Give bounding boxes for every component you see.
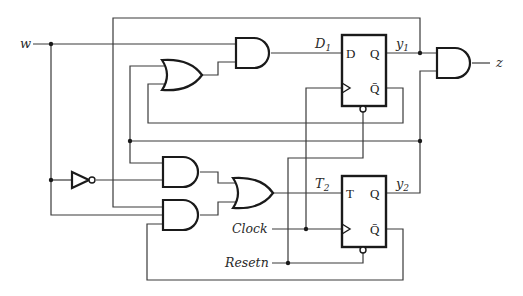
wire-or1-in-upper — [130, 66, 164, 141]
wire-and2-in-upper — [130, 141, 163, 163]
pin-q1bar: Q̄ — [370, 81, 380, 96]
label-t2: T2 — [315, 176, 330, 193]
pin-q2: Q — [370, 186, 380, 201]
label-w: w — [20, 36, 31, 51]
or-gate-t2 — [233, 178, 273, 208]
pin-q1: Q — [370, 46, 380, 61]
label-clock: Clock — [232, 221, 268, 236]
junction-dot — [49, 178, 53, 182]
label-z: z — [495, 55, 503, 70]
wire-or1-out — [200, 62, 236, 75]
and-gate-z — [437, 48, 470, 78]
t-flipflop: T Q Q̄ — [342, 176, 386, 253]
pin-q2bar: Q̄ — [370, 222, 380, 237]
wire-and2-out — [200, 172, 236, 183]
not-bubble-icon — [89, 177, 95, 183]
pin-d: D — [346, 46, 355, 61]
reset-bubble-icon — [360, 247, 366, 253]
wire-and3-out — [200, 202, 236, 215]
d-flipflop: D Q Q̄ — [342, 35, 386, 112]
or-gate-d1-feedback — [162, 60, 202, 90]
label-y2: y2 — [395, 176, 409, 193]
circuit-diagram: D Q Q̄ T Q Q̄ w z D1 y1 T2 y2 Clock Rese… — [0, 0, 523, 296]
wire-y2-to-zand — [420, 71, 437, 141]
junction-dot — [304, 227, 308, 231]
junction-dot — [49, 42, 53, 46]
reset-bubble-icon — [360, 106, 366, 112]
and-gate-t2-upper — [163, 157, 198, 187]
and-gate-d1 — [236, 38, 269, 68]
junction-dot — [286, 261, 290, 265]
pin-t: T — [346, 186, 354, 201]
junction-dot — [128, 139, 132, 143]
junction-dot — [418, 51, 422, 55]
not-gate-w — [72, 172, 89, 188]
wire-w-down — [51, 44, 163, 215]
wire-resetn — [272, 252, 363, 263]
label-d1: D1 — [314, 36, 331, 53]
junction-dot — [418, 139, 422, 143]
label-resetn: Resetn — [224, 255, 269, 270]
and-gate-t2-lower — [163, 200, 198, 230]
label-y1: y1 — [395, 36, 409, 53]
